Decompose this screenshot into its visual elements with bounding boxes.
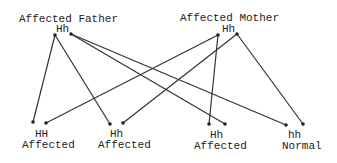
- inheritance-line: [209, 35, 218, 124]
- allele-dot: [216, 33, 220, 37]
- child-1-phenotype: Affected: [22, 140, 75, 151]
- father-genotype: Hh: [56, 24, 69, 35]
- inheritance-line: [237, 34, 303, 124]
- allele-dot: [223, 122, 227, 126]
- allele-dot: [301, 122, 305, 126]
- allele-dot: [69, 32, 73, 36]
- allele-dot: [284, 123, 288, 127]
- child-3-phenotype: Affected: [194, 141, 247, 152]
- mother-genotype: Hh: [222, 24, 235, 35]
- inheritance-line: [123, 34, 237, 123]
- inheritance-line: [46, 35, 218, 123]
- allele-dot: [207, 122, 211, 126]
- child-2-phenotype: Affected: [98, 140, 151, 151]
- allele-dot: [31, 120, 35, 124]
- allele-dot: [108, 122, 112, 126]
- inheritance-line: [33, 35, 55, 122]
- punnett-inheritance-diagram: Affected Father Hh Affected Mother Hh HH…: [0, 0, 337, 163]
- allele-dot: [44, 121, 48, 125]
- allele-dot: [235, 32, 239, 36]
- child-4-phenotype: Normal: [282, 141, 322, 152]
- inheritance-line: [55, 35, 110, 124]
- inheritance-line: [71, 34, 225, 124]
- allele-dot: [121, 121, 125, 125]
